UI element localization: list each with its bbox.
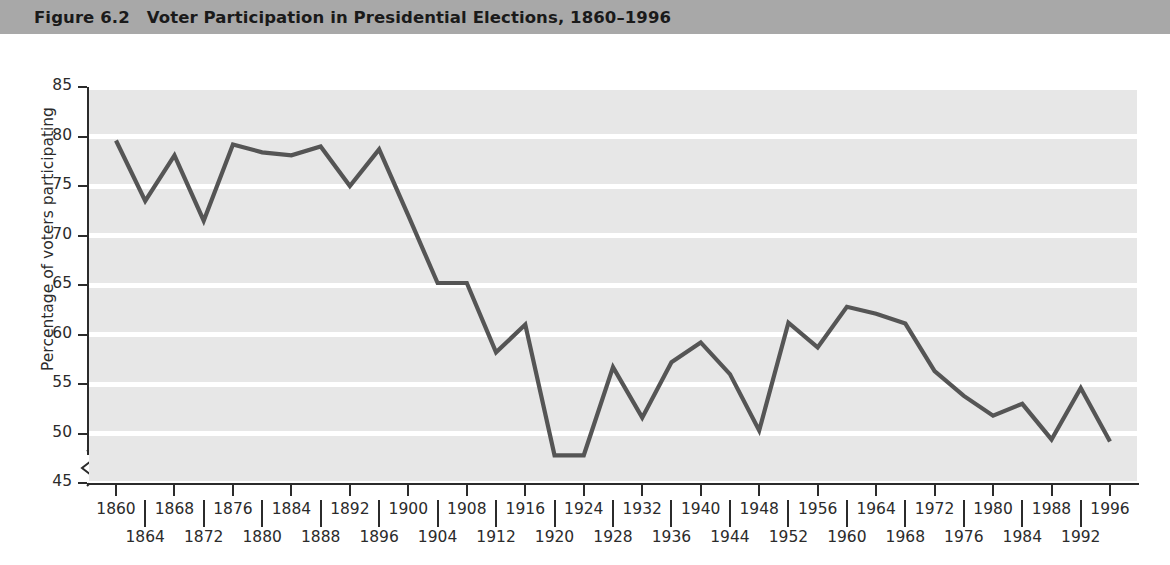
- x-axis-label-1888: 1888: [291, 530, 351, 546]
- x-tick-1932: [641, 485, 643, 496]
- x-tick-1916: [524, 485, 526, 496]
- x-axis-label-1932: 1932: [612, 502, 672, 518]
- y-tick-45: [78, 482, 87, 484]
- figure-number: Figure 6.2: [34, 8, 130, 27]
- x-tick-1924: [583, 485, 585, 496]
- x-axis-label-1924: 1924: [554, 502, 614, 518]
- chart-area: Percentage of voters participating 45505…: [0, 34, 1170, 565]
- x-axis-label-1876: 1876: [203, 502, 263, 518]
- plot-region: [89, 87, 1137, 483]
- figure-title: Voter Participation in Presidential Elec…: [147, 8, 671, 27]
- x-tick-1956: [817, 485, 819, 496]
- voter-participation-polyline: [116, 140, 1110, 455]
- x-tick-1868: [173, 485, 175, 496]
- x-axis-label-1868: 1868: [144, 502, 204, 518]
- x-axis-label-1936: 1936: [641, 530, 701, 546]
- x-tick-1860: [115, 485, 117, 496]
- y-tick-label-55: 55: [38, 375, 72, 391]
- y-tick-label-60: 60: [38, 326, 72, 342]
- figure-header-bar: Figure 6.2 Voter Participation in Presid…: [0, 0, 1170, 34]
- x-axis-label-1900: 1900: [378, 502, 438, 518]
- x-tick-1964: [875, 485, 877, 496]
- y-tick-label-65: 65: [38, 276, 72, 292]
- x-axis-line: [87, 483, 1139, 485]
- y-tick-label-80: 80: [38, 128, 72, 144]
- x-tick-1900: [407, 485, 409, 496]
- x-axis-label-1940: 1940: [671, 502, 731, 518]
- x-axis-label-1980: 1980: [963, 502, 1023, 518]
- x-axis-label-1984: 1984: [992, 530, 1052, 546]
- y-tick-65: [78, 284, 87, 286]
- x-axis-label-1880: 1880: [232, 530, 292, 546]
- y-tick-label-50: 50: [38, 425, 72, 441]
- x-tick-1884: [290, 485, 292, 496]
- y-tick-60: [78, 334, 87, 336]
- x-axis-label-1944: 1944: [700, 530, 760, 546]
- x-axis-label-1896: 1896: [349, 530, 409, 546]
- x-axis-label-1908: 1908: [437, 502, 497, 518]
- x-axis-label-1904: 1904: [408, 530, 468, 546]
- x-axis-label-1920: 1920: [525, 530, 585, 546]
- x-tick-1948: [758, 485, 760, 496]
- x-axis-label-1872: 1872: [174, 530, 234, 546]
- x-axis-label-1916: 1916: [495, 502, 555, 518]
- x-tick-1908: [466, 485, 468, 496]
- figure-header-inner: Figure 6.2 Voter Participation in Presid…: [34, 0, 671, 34]
- x-tick-1980: [992, 485, 994, 496]
- x-axis-label-1892: 1892: [320, 502, 380, 518]
- x-tick-1996: [1109, 485, 1111, 496]
- x-axis-label-1864: 1864: [115, 530, 175, 546]
- y-tick-label-45: 45: [38, 474, 72, 490]
- y-tick-label-75: 75: [38, 177, 72, 193]
- x-axis-label-1976: 1976: [934, 530, 994, 546]
- y-tick-label-85: 85: [38, 78, 72, 94]
- x-axis-label-1956: 1956: [788, 502, 848, 518]
- data-series-line: [89, 87, 1137, 483]
- y-tick-70: [78, 235, 87, 237]
- y-tick-85: [78, 86, 87, 88]
- y-tick-75: [78, 185, 87, 187]
- x-axis-label-1960: 1960: [817, 530, 877, 546]
- x-axis-label-1948: 1948: [729, 502, 789, 518]
- x-axis-label-1988: 1988: [1022, 502, 1082, 518]
- y-tick-80: [78, 136, 87, 138]
- x-axis-label-1884: 1884: [261, 502, 321, 518]
- x-axis-label-1968: 1968: [875, 530, 935, 546]
- y-tick-50: [78, 433, 87, 435]
- x-axis-label-1928: 1928: [583, 530, 643, 546]
- x-tick-1988: [1051, 485, 1053, 496]
- y-tick-label-70: 70: [38, 227, 72, 243]
- y-tick-55: [78, 383, 87, 385]
- x-tick-1972: [934, 485, 936, 496]
- x-axis-label-1860: 1860: [86, 502, 146, 518]
- x-axis-label-1912: 1912: [466, 530, 526, 546]
- x-axis-label-1952: 1952: [758, 530, 818, 546]
- x-tick-1940: [700, 485, 702, 496]
- x-axis-label-1964: 1964: [846, 502, 906, 518]
- x-tick-1876: [232, 485, 234, 496]
- x-tick-1892: [349, 485, 351, 496]
- x-axis-label-1992: 1992: [1051, 530, 1111, 546]
- x-axis-label-1972: 1972: [905, 502, 965, 518]
- x-axis-label-1996: 1996: [1080, 502, 1140, 518]
